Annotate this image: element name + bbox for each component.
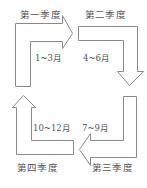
cycle-arrows (0, 0, 147, 188)
q1-arrow-right-icon (16, 16, 73, 87)
months-label-q1: 1~3月 (35, 53, 62, 63)
quarter-label-q2: 第二季度 (85, 10, 126, 20)
months-label-q4: 10~12月 (33, 123, 71, 133)
quarter-label-q1: 第一季度 (20, 10, 61, 20)
quarter-label-q3: 第三季度 (92, 163, 133, 173)
months-label-q3: 7~9月 (82, 123, 109, 133)
months-label-q2: 4~6月 (83, 53, 110, 63)
quarter-label-q4: 第四季度 (17, 163, 58, 173)
quarterly-cycle-diagram: 第一季度 第二季度 第三季度 第四季度 1~3月 4~6月 7~9月 10~12… (0, 0, 147, 188)
